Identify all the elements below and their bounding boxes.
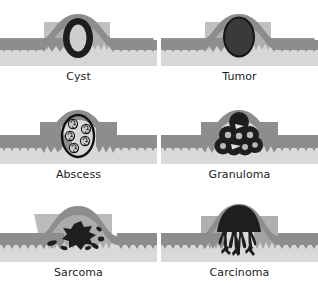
granuloma-illustration (161, 98, 318, 170)
tumor-illustration (161, 0, 318, 72)
panel-label-abscess: Abscess (0, 168, 157, 182)
panel-abscess: Abscess (0, 98, 157, 196)
carcinoma-surface-mass (217, 205, 261, 232)
panel-sarcoma: Sarcoma (0, 196, 157, 293)
cyst-lumen (70, 25, 87, 52)
pathology-figure-grid: Cyst Tumor (0, 0, 318, 293)
panel-label-cyst: Cyst (0, 70, 157, 84)
sarcoma-illustration (0, 196, 157, 268)
panel-tumor: Tumor (161, 0, 318, 98)
panel-granuloma: Granuloma (161, 98, 318, 196)
panel-cyst: Cyst (0, 0, 157, 98)
panel-carcinoma: Carcinoma (161, 196, 318, 293)
cyst-illustration (0, 0, 157, 72)
abscess-illustration (0, 98, 157, 170)
carcinoma-illustration (161, 196, 318, 268)
tumor-mass (225, 19, 253, 56)
panel-label-sarcoma: Sarcoma (0, 266, 157, 280)
panel-label-carcinoma: Carcinoma (161, 266, 318, 280)
panel-label-tumor: Tumor (161, 70, 318, 84)
panel-label-granuloma: Granuloma (161, 168, 318, 182)
